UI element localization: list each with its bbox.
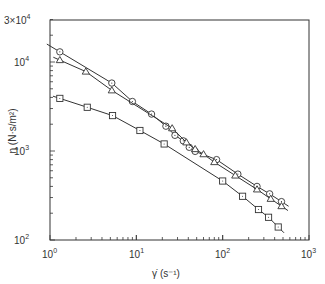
triangle-marker [108, 87, 115, 93]
y-tick-label-100: 102 [14, 233, 29, 246]
axis-ticks [50, 20, 309, 240]
x-tick-label-10: 101 [129, 247, 144, 260]
plot-frame [50, 20, 309, 240]
x-tick-label-100: 102 [215, 247, 230, 260]
y-axis-title: η (N·s/m²) [7, 109, 18, 154]
series-squares [53, 95, 284, 233]
x-tick-label-1000: 103 [301, 247, 316, 260]
y-tick-label-10000: 104 [14, 55, 29, 68]
y-tick-label-30000: 3×104 [4, 13, 31, 26]
viscosity-shear-rate-chart: 102 103 104 3×104 100 101 102 103 γ̇ (s⁻… [0, 0, 325, 284]
triangle-marker [56, 57, 63, 63]
x-tick-label-1: 100 [42, 247, 57, 260]
x-axis-title: γ̇ (s⁻¹) [152, 268, 180, 279]
series-triangles [53, 57, 288, 211]
data-series [47, 44, 289, 233]
plot-axes [50, 20, 309, 240]
triangle-marker [169, 125, 176, 131]
